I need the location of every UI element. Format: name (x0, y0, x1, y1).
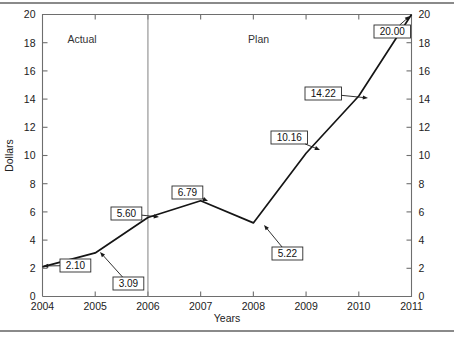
data-series-line (43, 15, 412, 267)
region-label-actual: Actual (67, 33, 96, 45)
y-tick-label-left: 10 (24, 149, 36, 161)
callout-label: 2.10 (66, 260, 86, 271)
x-tick-label: 2010 (347, 300, 371, 312)
callout-connector (102, 254, 122, 277)
x-tick-label: 2011 (400, 300, 423, 312)
y-tick-label-left: 16 (24, 65, 36, 77)
y-tick-label-right: 8 (419, 178, 425, 190)
y-tick-label-right: 18 (419, 37, 431, 49)
callout-label: 5.60 (117, 208, 137, 219)
callout-label: 14.22 (311, 88, 336, 99)
y-tick-label-left: 20 (24, 8, 36, 20)
line-chart: 02468101214161820 02468101214161820 2004… (0, 0, 454, 338)
x-tick-label: 2007 (189, 300, 213, 312)
y-tick-label-right: 16 (419, 65, 431, 77)
y-tick-label-right: 6 (419, 206, 425, 218)
callout-label: 3.09 (119, 278, 139, 289)
y-tick-label-right: 20 (419, 8, 431, 20)
callout-connector (266, 227, 282, 247)
y-tick-label-left: 18 (24, 37, 36, 49)
callout-5-22: 5.22 (264, 225, 303, 260)
callout-5-60: 5.60 (111, 207, 159, 220)
x-tick-label: 2008 (242, 300, 266, 312)
y-axis-right: 02468101214161820 (407, 8, 431, 302)
x-axis-title: Years (214, 312, 240, 324)
x-tick-label: 2006 (136, 300, 160, 312)
y-tick-label-left: 8 (30, 178, 36, 190)
callout-connector (342, 95, 365, 97)
y-tick-label-left: 14 (24, 93, 36, 105)
callout-label: 5.22 (278, 248, 298, 259)
callout-arrowhead (314, 146, 320, 150)
callout-label: 20.00 (380, 26, 405, 37)
plot-frame (43, 15, 412, 297)
callout-label: 10.16 (277, 132, 302, 143)
y-tick-label-right: 2 (419, 262, 425, 274)
y-tick-label-right: 14 (419, 93, 431, 105)
region-labels: ActualPlan (67, 33, 269, 45)
data-point-callouts: 2.103.095.606.795.2210.1614.2220.00 (43, 16, 411, 290)
callout-6-79: 6.79 (172, 186, 208, 201)
callout-2-10: 2.10 (43, 259, 91, 272)
region-label-plan: Plan (248, 33, 269, 45)
callout-3-09: 3.09 (100, 252, 144, 290)
x-tick-label: 2004 (31, 300, 55, 312)
y-axis-left: 02468101214161820 (24, 8, 48, 302)
y-tick-label-right: 4 (419, 234, 425, 246)
y-tick-label-right: 10 (419, 149, 431, 161)
callout-20-00: 20.00 (374, 16, 411, 38)
callout-label: 6.79 (178, 187, 198, 198)
plot-border (43, 15, 412, 297)
callout-arrowhead (363, 95, 368, 99)
callout-14-22: 14.22 (305, 87, 368, 100)
y-tick-label-left: 6 (30, 206, 36, 218)
y-tick-label-left: 4 (30, 234, 36, 246)
y-tick-label-left: 2 (30, 262, 36, 274)
y-axis-title: Dollars (3, 139, 15, 172)
x-tick-label: 2009 (294, 300, 318, 312)
figure-container: 02468101214161820 02468101214161820 2004… (0, 0, 454, 338)
y-tick-label-left: 12 (24, 121, 36, 133)
callout-10-16: 10.16 (271, 131, 320, 150)
series-polyline (43, 15, 412, 267)
y-tick-label-right: 12 (419, 121, 431, 133)
x-tick-label: 2005 (84, 300, 108, 312)
